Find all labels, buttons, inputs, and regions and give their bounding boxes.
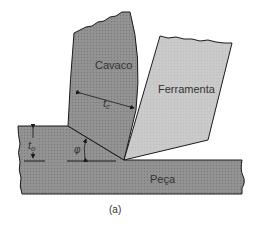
tool-shape [124,36,232,160]
shear-angle-label: φ [74,144,81,155]
figure-caption: (a) [109,204,121,215]
workpiece-label: Peça [150,173,176,185]
chip-label: Cavaco [95,59,132,71]
orthogonal-cutting-diagram: tc to φ Cavaco Ferramenta Peça (a) [0,0,257,228]
tool-label: Ferramenta [158,83,216,95]
